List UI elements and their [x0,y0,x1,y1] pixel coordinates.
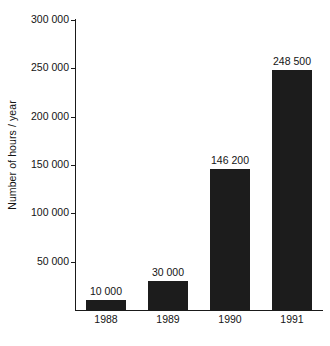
bar: 146 200 [210,169,250,310]
x-axis-category-label: 1990 [218,313,241,325]
y-axis-tick-label: 100 000 [31,206,69,218]
bar-chart-figure: Number of hours / year 50 000100 000150 … [0,0,330,346]
x-axis-line [75,310,323,311]
bar-value-label: 248 500 [273,55,311,67]
y-axis-tick-label: 150 000 [31,158,69,170]
y-axis-tick-label: 50 000 [37,255,69,267]
bar-value-label: 30 000 [152,266,184,278]
y-axis-tick-label: 300 000 [31,13,69,25]
y-axis-ticks: 50 000100 000150 000200 000250 000300 00… [0,20,75,310]
x-axis-category-label: 1991 [280,313,303,325]
x-axis-category-label: 1989 [156,313,179,325]
bars-layer: 10 00030 000146 200248 500 [75,20,323,310]
y-axis-tick-label: 200 000 [31,110,69,122]
bar-value-label: 146 200 [211,154,249,166]
bar: 10 000 [86,300,126,310]
x-axis-category-label: 1988 [94,313,117,325]
x-axis-labels: 1988198919901991 [75,313,323,333]
y-axis-tick-label: 250 000 [31,61,69,73]
bar: 30 000 [148,281,188,310]
bar-value-label: 10 000 [90,285,122,297]
bar: 248 500 [272,70,312,310]
